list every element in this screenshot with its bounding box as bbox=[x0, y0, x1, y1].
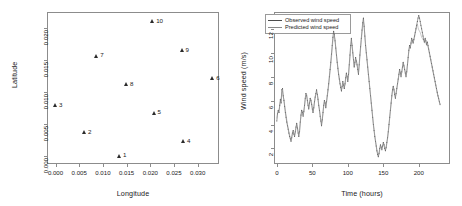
scatter-xtick bbox=[198, 164, 199, 167]
legend-label-predicted: Predicted wind speed bbox=[285, 24, 339, 31]
timeseries-legend: Observed wind speedPredicted wind speed bbox=[265, 14, 351, 34]
scatter-ytick-label: 0.020 bbox=[42, 28, 49, 48]
timeseries-ytick-label: 10 bbox=[267, 52, 274, 66]
scatter-xtick bbox=[127, 164, 128, 167]
scatter-point-6 bbox=[210, 76, 214, 80]
scatter-point-5 bbox=[152, 111, 156, 115]
scatter-point-2 bbox=[82, 130, 86, 134]
timeseries-observed-marker bbox=[443, 0, 444, 1]
scatter-point-label-2: 2 bbox=[88, 128, 91, 135]
timeseries-xaxis-label: Time (hours) bbox=[274, 189, 450, 198]
timeseries-ytick-label: 12 bbox=[267, 28, 274, 42]
scatter-ytick-label: 0.015 bbox=[42, 60, 49, 80]
scatter-point-label-5: 5 bbox=[158, 108, 161, 115]
timeseries-observed-marker bbox=[442, 0, 443, 1]
timeseries-observed-marker bbox=[440, 0, 441, 1]
scatter-xtick-label: 0.030 bbox=[184, 169, 212, 176]
panel-scatter: Longitude Latitude 0.0000.0050.0100.0150… bbox=[0, 0, 231, 206]
scatter-point-label-10: 10 bbox=[156, 17, 163, 24]
timeseries-observed-marker bbox=[446, 0, 447, 1]
timeseries-xtick-label: 50 bbox=[300, 169, 324, 176]
legend-label-observed: Observed wind speed bbox=[285, 17, 339, 24]
scatter-xtick bbox=[79, 164, 80, 167]
scatter-point-7 bbox=[94, 54, 98, 58]
timeseries-xtick-label: 100 bbox=[336, 169, 360, 176]
scatter-plot-area bbox=[47, 12, 219, 164]
timeseries-observed-marker bbox=[445, 0, 446, 1]
scatter-point-3 bbox=[53, 103, 57, 107]
timeseries-ytick-label: 8 bbox=[267, 76, 274, 90]
scatter-point-9 bbox=[180, 48, 184, 52]
panel-timeseries: Time (hours) Wind speed (m/s) Observed w… bbox=[231, 0, 462, 206]
scatter-point-1 bbox=[117, 154, 121, 158]
scatter-point-label-1: 1 bbox=[123, 151, 126, 158]
timeseries-xtick bbox=[312, 164, 313, 167]
scatter-point-label-7: 7 bbox=[100, 51, 103, 58]
timeseries-xtick-label: 0 bbox=[265, 169, 289, 176]
scatter-point-label-8: 8 bbox=[130, 80, 133, 87]
legend-row-predicted: Predicted wind speed bbox=[268, 24, 347, 31]
timeseries-xtick bbox=[419, 164, 420, 167]
scatter-point-label-4: 4 bbox=[187, 137, 190, 144]
timeseries-observed-marker bbox=[445, 0, 446, 1]
timeseries-xtick bbox=[348, 164, 349, 167]
timeseries-observed-marker bbox=[441, 0, 442, 1]
timeseries-xtick-label: 200 bbox=[407, 169, 431, 176]
scatter-point-10 bbox=[150, 19, 154, 23]
scatter-ytick-label: 0.005 bbox=[42, 124, 49, 144]
timeseries-observed-marker bbox=[444, 0, 445, 1]
scatter-point-8 bbox=[124, 82, 128, 86]
scatter-point-4 bbox=[181, 139, 185, 143]
timeseries-yaxis-label: Wind speed (m/s) bbox=[239, 52, 248, 110]
scatter-xaxis-label: Longitude bbox=[47, 189, 219, 198]
scatter-yaxis-label: Latitude bbox=[10, 62, 19, 88]
timeseries-xtick bbox=[277, 164, 278, 167]
scatter-point-label-3: 3 bbox=[59, 101, 62, 108]
scatter-ytick-label: 0.000 bbox=[42, 156, 49, 176]
timeseries-plot-area bbox=[274, 12, 450, 164]
timeseries-xtick bbox=[383, 164, 384, 167]
timeseries-observed-marker bbox=[442, 0, 443, 1]
legend-row-observed: Observed wind speed bbox=[268, 17, 347, 24]
scatter-xtick bbox=[174, 164, 175, 167]
timeseries-xtick-label: 150 bbox=[371, 169, 395, 176]
scatter-point-label-9: 9 bbox=[186, 46, 189, 53]
legend-swatch-observed bbox=[268, 20, 282, 21]
scatter-xtick bbox=[103, 164, 104, 167]
timeseries-ytick-label: 6 bbox=[267, 100, 274, 114]
scatter-point-label-6: 6 bbox=[216, 74, 219, 81]
scatter-ytick-label: 0.010 bbox=[42, 92, 49, 112]
scatter-xtick bbox=[56, 164, 57, 167]
timeseries-ytick-label: 2 bbox=[267, 148, 274, 162]
timeseries-ytick-label: 4 bbox=[267, 124, 274, 138]
figure-two-panel: Longitude Latitude 0.0000.0050.0100.0150… bbox=[0, 0, 462, 206]
scatter-xtick bbox=[150, 164, 151, 167]
